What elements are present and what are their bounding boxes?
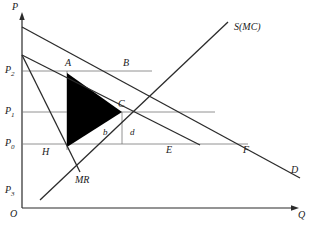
deadweight-loss-triangle — [67, 73, 122, 147]
price-label-p2-sub: 2 — [11, 70, 15, 78]
supply-curve-label: S(MC) — [234, 22, 261, 32]
economics-diagram: P Q O P2 P1 P0 P3 S(MC) MR D A B C E F H… — [0, 0, 313, 231]
price-label-p3: P3 — [5, 185, 15, 198]
price-label-p0-sub: 0 — [11, 143, 15, 151]
marginal-revenue-label: MR — [75, 175, 89, 185]
diagram-canvas — [0, 0, 313, 231]
point-label-a: A — [65, 58, 71, 68]
area-label-d: d — [130, 128, 135, 137]
price-label-p0: P0 — [5, 138, 15, 151]
area-label-b: b — [103, 128, 108, 137]
y-axis-arrow — [19, 12, 24, 20]
demand-curve-label: D — [291, 165, 298, 175]
price-label-p2: P2 — [5, 65, 15, 78]
point-label-c: C — [118, 99, 125, 109]
demand-curve-d — [22, 27, 300, 178]
point-label-e: E — [166, 145, 172, 155]
point-label-f: F — [243, 145, 249, 155]
origin-label: O — [10, 209, 17, 219]
lower-demand-curve — [22, 55, 200, 145]
axes-group — [19, 12, 299, 211]
price-level-lines — [22, 71, 248, 144]
y-axis-label: P — [12, 2, 18, 12]
point-label-b: B — [123, 58, 129, 68]
point-label-h: H — [42, 147, 49, 157]
price-label-p1: P1 — [5, 106, 15, 119]
price-label-p1-sub: 1 — [11, 111, 15, 119]
price-label-p3-sub: 3 — [11, 190, 15, 198]
x-axis-label: Q — [298, 210, 305, 220]
